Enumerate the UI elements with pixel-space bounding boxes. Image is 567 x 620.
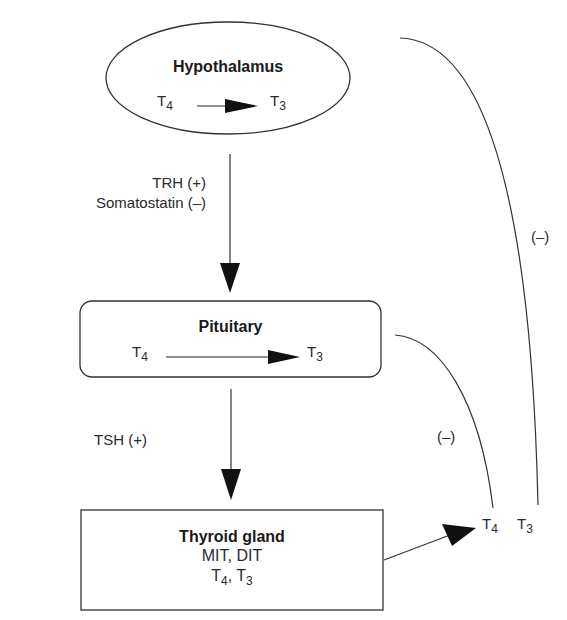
arrowhead-icon [442,524,476,546]
pituitary-title: Pituitary [80,318,381,336]
hypothalamus-title: Hypothalamus [106,58,350,76]
output-t3: T3 [517,515,533,536]
feedback-inner-label: (–) [437,428,455,445]
somatostatin-label: Somatostatin (–) [96,194,206,211]
feedback-curve-pituitary [395,335,493,508]
hypothalamus-t3: T3 [270,92,286,113]
arrowhead-icon [225,99,258,113]
feedback-outer-label: (–) [531,228,549,245]
arrowhead-icon [220,263,240,293]
thyroid-axis-diagram: Hypothalamus T4 T3 TRH (+) Somatostatin … [0,0,567,620]
hypothalamus-node: Hypothalamus [106,58,350,76]
arrowhead-icon [268,350,300,364]
arrowhead-icon [221,469,241,500]
thyroid-node: Thyroid gland MIT, DIT T4, T3 [81,528,383,591]
output-t4: T4 [482,515,498,536]
thyroid-title: Thyroid gland [81,528,383,546]
pituitary-node: Pituitary [80,318,381,336]
secretion-arrow [384,535,450,560]
feedback-curve-hypothalamus [400,38,538,505]
hypothalamus-ellipse [106,22,350,134]
tsh-label: TSH (+) [94,431,147,448]
trh-label: TRH (+) [152,174,206,191]
pituitary-t4: T4 [132,343,148,364]
pituitary-box [80,301,381,377]
thyroid-mit-dit: MIT, DIT [81,546,383,566]
hypothalamus-t4: T4 [157,92,173,113]
pituitary-t3: T3 [307,343,323,364]
thyroid-hormones: T4, T3 [81,566,383,591]
